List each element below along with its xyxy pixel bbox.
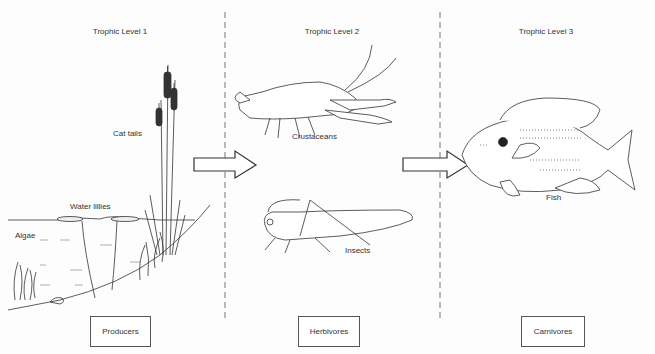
pond-illustration (8, 65, 210, 310)
food-chain-diagram: Trophic Level 1 Trophic Level 2 Trophic … (0, 0, 655, 354)
producers-box: Producers (90, 316, 151, 347)
herbivores-box: Herbivores (298, 316, 360, 347)
trophic-level-3-title: Trophic Level 3 (519, 27, 573, 36)
diagram-artwork (0, 0, 655, 354)
arrow-icon-2 (403, 151, 468, 178)
fish-label: Fish (546, 193, 561, 202)
algae-label: Algae (15, 231, 35, 240)
cat-tails-label: Cat tails (113, 129, 142, 138)
trophic-level-1-title: Trophic Level 1 (93, 27, 147, 36)
water-lillies-label: Water lillies (70, 202, 111, 211)
trophic-level-2-title: Trophic Level 2 (305, 27, 359, 36)
crustaceans-label: Crustaceans (292, 132, 337, 141)
carnivores-box: Carnivores (521, 316, 585, 347)
crayfish-illustration (235, 45, 396, 138)
insects-label: Insects (345, 246, 370, 255)
sunfish-illustration (462, 98, 635, 196)
grasshopper-illustration (264, 200, 412, 253)
